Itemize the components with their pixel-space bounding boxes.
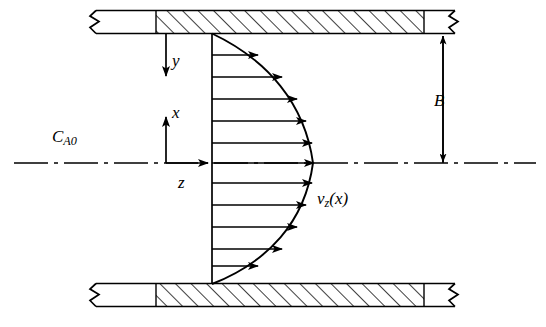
top-plate-hatching xyxy=(156,11,424,34)
top-plate-left-break-symbol xyxy=(90,11,99,34)
parabolic-profile-curve xyxy=(212,34,313,285)
bottom-plate xyxy=(90,284,458,307)
bottom-plate-right-break-symbol xyxy=(449,284,458,307)
inlet-concentration-label: CA0 xyxy=(52,128,77,148)
velocity-profile-label: vz(x) xyxy=(317,190,348,210)
velocity-vectors xyxy=(212,55,314,266)
half-gap-label: B xyxy=(434,92,444,109)
velocity-profile xyxy=(212,34,314,285)
diagram-canvas xyxy=(0,0,546,327)
top-plate-right-break-symbol xyxy=(449,11,458,34)
flow-diagram-figure: CA0 y x z B vz(x) xyxy=(0,0,546,327)
z-axis-label: z xyxy=(178,174,185,191)
bottom-plate-hatching xyxy=(156,284,424,307)
bottom-plate-left-break-symbol xyxy=(90,284,99,307)
top-plate xyxy=(90,11,458,34)
x-axis-label: x xyxy=(172,104,180,121)
y-axis-label: y xyxy=(172,52,180,69)
